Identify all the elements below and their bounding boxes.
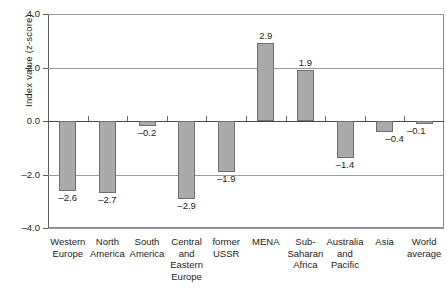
y-tick-label: –4.0 — [0, 223, 40, 233]
x-tick-mark — [286, 116, 287, 121]
y-tick-mark — [43, 14, 48, 15]
x-tick-mark — [206, 116, 207, 121]
bar — [416, 121, 433, 124]
x-tick-mark — [167, 116, 168, 121]
bar — [257, 43, 274, 121]
y-tick-label: 0.0 — [0, 116, 40, 126]
gridline-4.0 — [48, 14, 444, 15]
gridline-–4.0 — [48, 228, 444, 229]
bar-value-label: –1.4 — [323, 160, 367, 170]
bar — [218, 121, 235, 172]
bar — [59, 121, 76, 191]
bar — [99, 121, 116, 193]
bar — [139, 121, 156, 126]
y-tick-label: 4.0 — [0, 9, 40, 19]
bar-value-label: –0.1 — [394, 126, 438, 136]
x-tick-mark — [88, 116, 89, 121]
x-tick-mark — [404, 116, 405, 121]
x-tick-mark — [127, 116, 128, 121]
bar-value-label: 1.9 — [283, 58, 327, 68]
bar-value-label: –2.9 — [165, 201, 209, 211]
bar — [178, 121, 195, 199]
y-tick-mark — [43, 68, 48, 69]
bar — [337, 121, 354, 158]
y-tick-label: –2.0 — [0, 170, 40, 180]
bar — [297, 70, 314, 121]
bar-value-label: –2.6 — [46, 193, 90, 203]
bar — [376, 121, 393, 132]
bar-value-label: –1.9 — [204, 174, 248, 184]
y-tick-mark — [43, 175, 48, 176]
category-label: Worldaverage — [399, 236, 447, 259]
y-tick-mark — [43, 121, 48, 122]
gridline-2.0 — [48, 68, 444, 69]
bar-value-label: 2.9 — [244, 31, 288, 41]
y-tick-mark — [43, 228, 48, 229]
y-tick-label: 2.0 — [0, 63, 40, 73]
x-tick-mark — [365, 116, 366, 121]
bar-chart: Index value (z-score) 4.02.00.0–2.0–4.0 … — [0, 0, 447, 293]
x-tick-mark — [325, 116, 326, 121]
bar-value-label: –2.7 — [85, 195, 129, 205]
bar-value-label: –0.2 — [125, 128, 169, 138]
x-tick-mark — [246, 116, 247, 121]
